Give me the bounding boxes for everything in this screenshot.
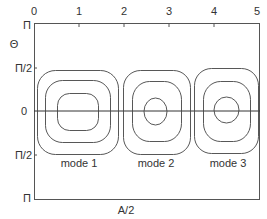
x-axis-label: A/2 <box>118 204 135 216</box>
x-tick-label: 4 <box>211 5 217 17</box>
x-tick-label: 0 <box>31 5 37 17</box>
mode-contour-diagram: 0 1 2 3 4 5 Π Θ Π/2 0 Π/2 Π mode 1 mode … <box>0 0 267 219</box>
y-tick-label: Π/2 <box>15 62 32 74</box>
x-tick-label: 3 <box>166 5 172 17</box>
y-tick-label: Π <box>23 192 31 204</box>
mode-2-label: mode 2 <box>138 157 175 169</box>
y-tick-label: 0 <box>21 105 27 117</box>
x-tick-label: 5 <box>254 5 260 17</box>
mode-1-label: mode 1 <box>61 157 98 169</box>
y-axis-label: Θ <box>10 38 19 50</box>
x-tick-label: 1 <box>76 5 82 17</box>
y-tick-label: Π/2 <box>15 149 32 161</box>
y-tick-label: Π <box>23 19 31 31</box>
x-tick-label: 2 <box>121 5 127 17</box>
mode-2-contours <box>124 71 191 155</box>
mode-3-label: mode 3 <box>210 157 247 169</box>
mode-1-contours <box>38 71 119 155</box>
